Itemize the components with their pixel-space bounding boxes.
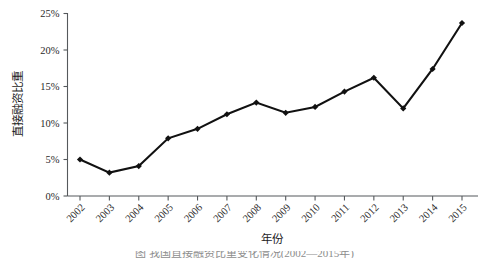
x-tick-label: 2003 <box>94 202 117 225</box>
x-tick-label: 2011 <box>329 202 351 224</box>
x-tick-label: 2009 <box>270 202 293 225</box>
figure-caption-text: 图 我国直接融资比重变化情况(2002—2015年) <box>0 251 489 258</box>
y-tick-group: 0%5%10%15%20%25% <box>40 8 67 202</box>
series-marker-group <box>77 20 465 176</box>
y-tick-label: 25% <box>40 8 60 19</box>
y-tick-label: 10% <box>40 118 60 129</box>
x-tick-label: 2012 <box>358 202 381 225</box>
x-tick-label: 2015 <box>446 202 469 225</box>
x-axis-title: 年份 <box>261 232 284 245</box>
chart-figure: 0%5%10%15%20%25% 20022003200420052006200… <box>0 0 489 258</box>
y-tick-label: 0% <box>46 191 60 202</box>
x-tick-label: 2008 <box>241 202 264 225</box>
y-axis-title: 直接融资比重 <box>11 71 24 137</box>
x-tick-label: 2010 <box>299 202 322 225</box>
data-point-marker <box>253 99 259 105</box>
data-point-marker <box>283 110 289 116</box>
x-tick-label: 2013 <box>388 202 411 225</box>
x-tick-label: 2005 <box>152 202 175 225</box>
figure-caption-clipped: 图 我国直接融资比重变化情况(2002—2015年) <box>0 251 489 258</box>
x-tick-label: 2004 <box>123 201 146 224</box>
line-chart: 0%5%10%15%20%25% 20022003200420052006200… <box>0 0 489 258</box>
x-tick-label: 2014 <box>417 201 440 224</box>
y-tick-label: 20% <box>40 45 60 56</box>
x-tick-label: 2002 <box>64 202 87 225</box>
y-tick-label: 5% <box>46 154 60 165</box>
x-tick-label: 2006 <box>182 202 205 225</box>
data-point-marker <box>77 156 83 162</box>
x-tick-label: 2007 <box>211 202 234 225</box>
x-tick-group: 2002200320042005200620072008200920102011… <box>64 196 469 224</box>
data-point-marker <box>106 170 112 176</box>
series-line-direct-financing <box>80 23 462 173</box>
y-tick-label: 15% <box>40 81 60 92</box>
